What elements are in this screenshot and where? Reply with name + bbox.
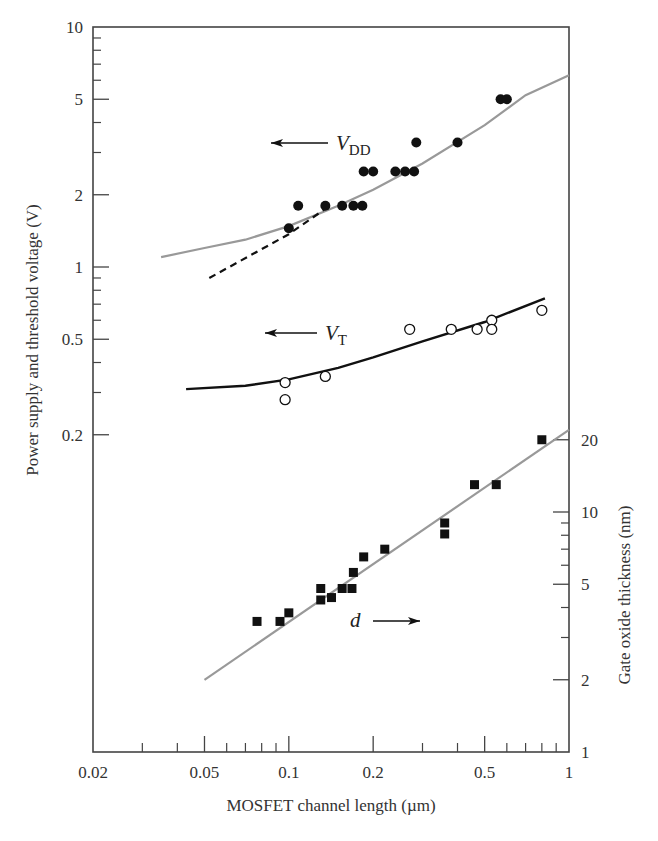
y-axis-title-right: Gate oxide thickness (nm) xyxy=(615,506,634,685)
y-right-tick-label: 5 xyxy=(581,575,590,594)
vt-data-point xyxy=(472,324,482,334)
oxide-thickness-data-point xyxy=(440,529,449,538)
vdd-data-point xyxy=(368,166,378,176)
y-left-tick-label: 5 xyxy=(75,90,84,109)
vt-data-point xyxy=(405,324,415,334)
oxide-thickness-data-point xyxy=(284,608,293,617)
vt-data-point xyxy=(280,395,290,405)
vdd-label: VDD xyxy=(336,131,371,158)
x-tick-label: 0.02 xyxy=(78,763,108,782)
vdd-data-point xyxy=(348,201,358,211)
oxide-thickness-data-point xyxy=(276,617,285,626)
oxide-thickness-data-point xyxy=(470,480,479,489)
y-axis-title-left: Power supply and threshold voltage (V) xyxy=(23,204,42,475)
vdd-label-subscript: DD xyxy=(349,142,371,158)
vdd-data-point xyxy=(320,201,330,211)
oxide-thickness-data-point xyxy=(349,568,358,577)
vt-fit-line xyxy=(186,298,545,389)
vdd-data-point xyxy=(502,94,512,104)
y-left-tick-label: 0.2 xyxy=(62,426,83,445)
x-tick-label: 0.2 xyxy=(363,763,384,782)
vt-data-point xyxy=(320,371,330,381)
plot-border xyxy=(93,27,569,752)
chart: 0.020.050.10.20.51105210.50.22010521 VDD… xyxy=(0,0,658,841)
oxide-thickness-data-point xyxy=(253,617,262,626)
vt-data-point xyxy=(487,324,497,334)
plot-frame xyxy=(93,27,569,752)
vt-data-point xyxy=(446,324,456,334)
x-tick-label: 0.05 xyxy=(190,763,220,782)
vdd-data-point xyxy=(359,166,369,176)
x-tick-label: 1 xyxy=(565,763,574,782)
vdd-data-point xyxy=(411,138,421,148)
oxide-thickness-data-point xyxy=(316,595,325,604)
oxide-thickness-data-point xyxy=(380,545,389,554)
x-tick-label: 0.5 xyxy=(474,763,495,782)
d-fit-line xyxy=(205,430,570,680)
vdd-data-point xyxy=(409,166,419,176)
oxide-thickness-data-point xyxy=(338,584,347,593)
y-left-tick-label: 0.5 xyxy=(62,330,83,349)
y-right-tick-label: 20 xyxy=(581,431,598,450)
vdd-data-point xyxy=(400,166,410,176)
vdd-data-point xyxy=(293,201,303,211)
y-right-tick-label: 2 xyxy=(581,671,590,690)
y-right-tick-label: 1 xyxy=(581,743,590,762)
vdd-data-point xyxy=(284,223,294,233)
y-left-tick-label: 1 xyxy=(75,258,84,277)
oxide-thickness-data-point xyxy=(327,593,336,602)
y-right-tick-label: 10 xyxy=(581,503,598,522)
x-axis-title: MOSFET channel length (µm) xyxy=(226,796,435,815)
vdd-data-point xyxy=(337,201,347,211)
vt-label-subscript: T xyxy=(338,332,347,348)
oxide-thickness-data-point xyxy=(537,435,546,444)
vt-data-point xyxy=(537,305,547,315)
vt-label: VT xyxy=(325,321,347,348)
x-tick-label: 0.1 xyxy=(278,763,299,782)
oxide-thickness-data-point xyxy=(316,584,325,593)
y-left-tick-label: 10 xyxy=(66,18,83,37)
fit-lines xyxy=(161,75,569,680)
vt-data-point xyxy=(280,378,290,388)
vdd-data-point xyxy=(453,138,463,148)
oxide-thickness-data-point xyxy=(440,518,449,527)
oxide-thickness-data-point xyxy=(359,552,368,561)
y-left-tick-label: 2 xyxy=(75,186,84,205)
vdd-data-point xyxy=(390,166,400,176)
d-label: d xyxy=(350,608,361,632)
vdd-data-point xyxy=(357,201,367,211)
axis-labels: MOSFET channel length (µm) Power supply … xyxy=(23,204,634,815)
axis-ticks: 0.020.050.10.20.51105210.50.22010521 xyxy=(62,18,598,782)
oxide-thickness-data-point xyxy=(492,480,501,489)
oxide-thickness-data-point xyxy=(347,584,356,593)
